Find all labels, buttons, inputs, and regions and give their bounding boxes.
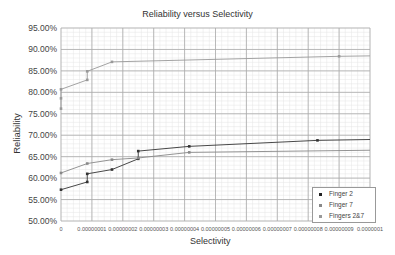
data-point <box>111 61 114 64</box>
legend-marker-icon <box>319 215 322 218</box>
x-tick-label: 0.00000002 <box>108 226 137 232</box>
data-point <box>137 150 140 153</box>
y-tick-label: 60.00% <box>28 173 57 183</box>
x-tick-label: 0.00000001 <box>77 226 106 232</box>
y-tick-label: 95.00% <box>28 23 57 33</box>
legend-marker-icon <box>319 204 322 207</box>
y-tick-label: 75.00% <box>28 109 57 119</box>
data-point <box>86 173 89 176</box>
data-point <box>60 88 63 91</box>
y-tick-label: 55.00% <box>28 195 57 205</box>
data-point <box>86 162 89 165</box>
legend-label: Fingers 2&7 <box>329 212 364 219</box>
y-tick-label: 90.00% <box>28 44 57 54</box>
legend-item-finger-2: Finger 2 <box>313 189 375 200</box>
legend-label: Finger 2 <box>329 190 353 197</box>
data-point <box>188 145 191 148</box>
x-tick-label: 0.00000003 <box>139 226 168 232</box>
x-tick-label: 0.00000004 <box>170 226 199 232</box>
data-point <box>60 107 63 110</box>
legend-item-finger-7: Finger 7 <box>313 200 375 211</box>
legend-item-fingers-2-7: Fingers 2&7 <box>313 211 375 222</box>
x-tick-label: 0.00000006 <box>232 226 261 232</box>
data-point <box>111 168 114 171</box>
data-point <box>60 97 63 100</box>
data-point <box>111 158 114 161</box>
data-point <box>86 70 89 73</box>
data-point <box>316 139 319 142</box>
x-tick-label: 0 <box>59 226 62 232</box>
x-tick-label: 0.0000001 <box>357 226 383 232</box>
data-point <box>188 151 191 154</box>
legend-marker-icon <box>319 193 322 196</box>
x-tick-label: 0.00000009 <box>325 226 354 232</box>
legend-label: Finger 7 <box>329 201 353 208</box>
legend: Finger 2 Finger 7 Fingers 2&7 <box>312 187 376 223</box>
y-tick-label: 80.00% <box>28 87 57 97</box>
data-point <box>86 79 89 82</box>
y-tick-label: 70.00% <box>28 130 57 140</box>
data-point <box>60 172 63 175</box>
x-tick-label: 0.00000005 <box>201 226 230 232</box>
y-tick-label: 50.00% <box>28 216 57 226</box>
data-point <box>338 55 341 58</box>
data-point <box>137 157 140 160</box>
data-point <box>60 188 63 191</box>
x-tick-label: 0.00000007 <box>263 226 292 232</box>
x-tick-label: 0.00000008 <box>294 226 323 232</box>
data-point <box>86 181 89 184</box>
y-tick-label: 85.00% <box>28 66 57 76</box>
y-tick-label: 65.00% <box>28 152 57 162</box>
